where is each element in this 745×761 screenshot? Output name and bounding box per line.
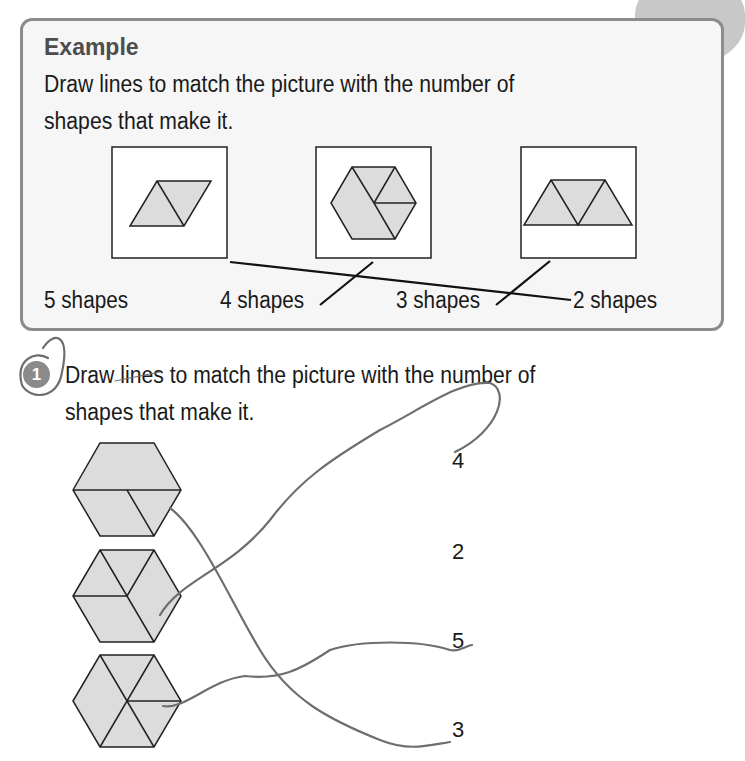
drawing-layer: [0, 0, 745, 761]
hexagon-2[interactable]: [73, 550, 181, 642]
hexagon-3[interactable]: [73, 655, 181, 747]
pencil-line-hex1-to-3: [170, 508, 450, 747]
hexagon-1[interactable]: [73, 443, 181, 536]
example-match-lines: [230, 261, 571, 305]
pencil-line-hex3-to-5: [163, 643, 472, 707]
example-picture-hexagon[interactable]: [316, 147, 431, 258]
pencil-stroke-lines: [115, 372, 160, 381]
pencil-line-hex2-to-4: [160, 383, 500, 615]
example-picture-trapezoid[interactable]: [521, 147, 636, 258]
pencil-circle-around-1: [21, 338, 65, 395]
example-picture-rhombus[interactable]: [112, 147, 227, 258]
